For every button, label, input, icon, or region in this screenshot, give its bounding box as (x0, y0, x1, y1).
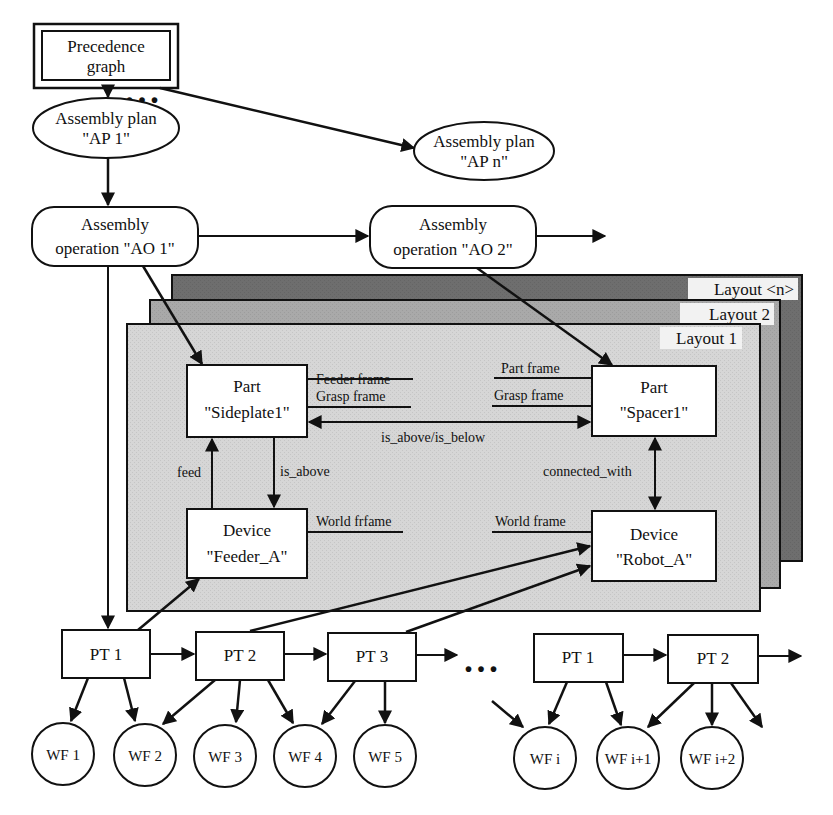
workflow-wf-i-plus-2: WF i+2 (681, 727, 743, 789)
assembly-operation-ao1: Assembly operation "AO 1" (32, 207, 198, 266)
svg-text:operation "AO 2": operation "AO 2" (393, 240, 513, 259)
svg-text:WF i: WF i (530, 751, 560, 767)
world-frame-right-label: World frame (495, 514, 566, 529)
svg-text:WF i+2: WF i+2 (689, 751, 735, 767)
svg-text:WF 3: WF 3 (208, 749, 242, 765)
svg-text:PT 2: PT 2 (224, 646, 256, 665)
workflow-wf3: WF 3 (194, 725, 256, 787)
svg-text:"AP n": "AP n" (460, 152, 508, 171)
grasp-frame-left-label: Grasp frame (316, 389, 386, 404)
part-sideplate1-node: Part "Sideplate1" (187, 365, 307, 437)
workflow-wf-i-plus-1: WF i+1 (597, 727, 659, 789)
assembly-plan-apn: Assembly plan "AP n" (414, 122, 554, 180)
workflow-wf4: WF 4 (274, 725, 336, 787)
pt-to-wf-arrows (71, 678, 762, 727)
device-robot-a-node: Device "Robot_A" (592, 511, 716, 581)
process-task-pt2: PT 2 (196, 632, 284, 680)
svg-text:Assembly plan: Assembly plan (55, 109, 157, 128)
svg-text:WF 1: WF 1 (46, 747, 80, 763)
svg-text:"Sideplate1": "Sideplate1" (204, 403, 290, 422)
ellipsis-bottom: • • • (465, 658, 497, 680)
process-task-pt1: PT 1 (62, 630, 150, 678)
svg-text:Assembly: Assembly (81, 215, 150, 234)
connected-with-label: connected_with (543, 464, 632, 479)
svg-text:PT 1: PT 1 (562, 648, 594, 667)
process-task-pt1-later: PT 1 (534, 634, 623, 682)
workflow-wf2: WF 2 (114, 724, 176, 786)
svg-text:Device: Device (630, 525, 678, 544)
process-task-pt2-later: PT 2 (668, 635, 758, 683)
assembly-operation-ao2: Assembly operation "AO 2" (370, 206, 536, 268)
is-above-label: is_above (280, 464, 330, 479)
svg-text:Assembly plan: Assembly plan (433, 132, 535, 151)
svg-text:Device: Device (223, 521, 271, 540)
svg-text:"Feeder_A": "Feeder_A" (207, 547, 288, 566)
svg-text:Precedence: Precedence (67, 37, 144, 56)
svg-text:Assembly: Assembly (419, 215, 488, 234)
svg-text:Part: Part (640, 378, 668, 397)
svg-text:PT 2: PT 2 (697, 649, 729, 668)
assembly-planning-diagram: Layout <n> Layout 2 Layout 1 Precedence … (0, 0, 833, 815)
workflow-wf1: WF 1 (32, 723, 94, 785)
feed-label: feed (177, 465, 201, 480)
layout-1-title: Layout 1 (676, 329, 737, 348)
workflow-nodes: WF 1 WF 2 WF 3 WF 4 WF 5 WF i WF i+1 WF (32, 723, 743, 789)
part-spacer1-node: Part "Spacer1" (592, 366, 716, 436)
precedence-graph-node: Precedence graph (34, 24, 178, 88)
svg-text:WF 4: WF 4 (288, 749, 322, 765)
arrow-pg-to-apn (160, 88, 414, 148)
grasp-frame-right-label: Grasp frame (494, 388, 564, 403)
workflow-wf5: WF 5 (354, 725, 416, 787)
svg-text:"AP 1": "AP 1" (82, 129, 130, 148)
process-task-pt3: PT 3 (328, 633, 416, 681)
world-frame-left-label: World frfame (316, 514, 391, 529)
is-above-is-below-label: is_above/is_below (381, 430, 486, 445)
assembly-plan-ap1: Assembly plan "AP 1" (33, 98, 179, 158)
svg-text:Part: Part (233, 377, 261, 396)
svg-text:WF 2: WF 2 (128, 748, 162, 764)
svg-text:"Spacer1": "Spacer1" (620, 403, 689, 422)
workflow-wf-i: WF i (514, 727, 576, 789)
svg-text:WF i+1: WF i+1 (605, 751, 651, 767)
svg-text:PT 3: PT 3 (356, 647, 388, 666)
device-feeder-a-node: Device "Feeder_A" (187, 509, 307, 578)
svg-text:graph: graph (87, 57, 126, 76)
part-frame-label: Part frame (501, 361, 560, 376)
layout-n-title: Layout <n> (714, 280, 794, 299)
layout-2-title: Layout 2 (709, 305, 770, 324)
svg-text:PT 1: PT 1 (90, 645, 122, 664)
svg-text:WF 5: WF 5 (368, 749, 402, 765)
svg-text:operation "AO 1": operation "AO 1" (55, 239, 175, 258)
svg-text:"Robot_A": "Robot_A" (616, 550, 692, 569)
